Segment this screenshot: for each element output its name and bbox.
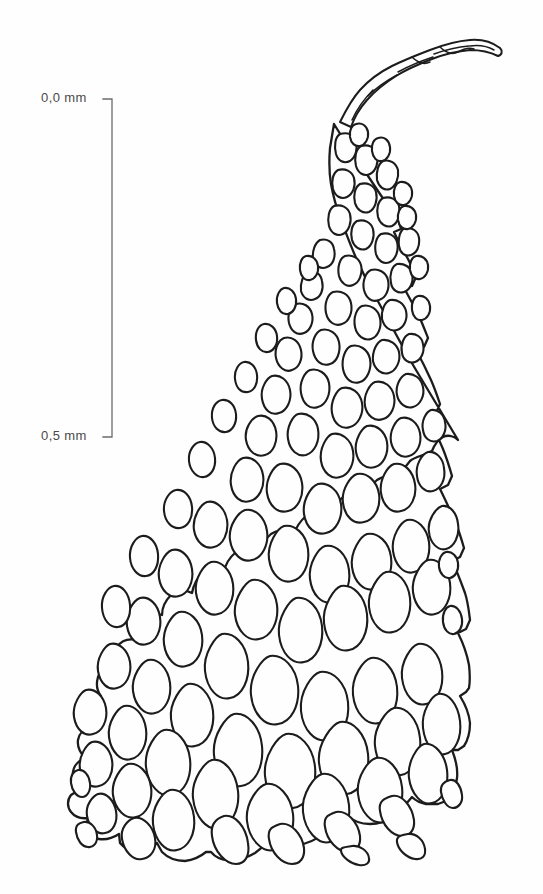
cell <box>398 206 416 229</box>
cell <box>341 846 369 865</box>
cell <box>205 634 249 699</box>
scale-bar-line <box>103 99 112 437</box>
cell <box>439 552 458 578</box>
cell <box>394 182 412 205</box>
scale-label-top: 0,0 mm <box>41 90 87 105</box>
cell <box>350 123 368 146</box>
cell <box>399 228 419 256</box>
cell <box>443 606 462 634</box>
cell <box>246 416 277 456</box>
cell <box>127 598 161 645</box>
cell <box>256 324 277 352</box>
cell <box>251 656 298 725</box>
cell <box>397 834 425 859</box>
cell <box>372 137 390 161</box>
cell <box>277 288 296 314</box>
cell <box>153 790 195 851</box>
cell <box>230 510 268 561</box>
cell <box>338 255 361 285</box>
cell <box>410 256 428 279</box>
cell <box>146 730 191 796</box>
cell <box>429 506 459 549</box>
cell <box>373 340 400 374</box>
cell <box>417 452 445 491</box>
moss-leaf-illustration <box>0 0 543 894</box>
cell <box>102 586 130 627</box>
cell <box>356 426 388 468</box>
cell <box>401 334 423 363</box>
cell <box>397 374 424 408</box>
cell <box>423 410 446 442</box>
figure-root: 0,0 mm 0,5 mm <box>0 0 543 894</box>
cell <box>325 291 351 324</box>
cell <box>324 586 368 651</box>
apex-hair-point <box>340 40 502 127</box>
cell <box>441 780 462 808</box>
cell <box>351 220 373 249</box>
scale-bar <box>103 99 112 437</box>
cell <box>412 296 430 320</box>
cell <box>76 822 97 847</box>
cell <box>301 370 330 408</box>
cell <box>130 536 158 576</box>
cell <box>133 660 171 714</box>
cell <box>332 388 363 428</box>
cell <box>382 300 407 331</box>
scale-label-bottom: 0,5 mm <box>41 428 87 443</box>
cell <box>231 458 264 502</box>
cell <box>304 484 342 534</box>
cell <box>332 169 354 198</box>
cell <box>300 256 318 280</box>
cell <box>354 183 376 212</box>
cell <box>98 644 131 689</box>
cell <box>365 382 395 420</box>
cell <box>343 346 371 383</box>
cell <box>343 474 380 523</box>
cell <box>328 205 350 235</box>
cell <box>381 464 416 512</box>
cell <box>279 598 323 663</box>
cell <box>196 562 234 615</box>
cell <box>74 690 107 735</box>
cell <box>363 269 388 300</box>
cell <box>276 338 302 371</box>
cell <box>354 306 380 340</box>
cell <box>288 414 319 456</box>
hair-point-body <box>340 40 502 127</box>
cell <box>164 490 192 528</box>
cell <box>267 464 303 512</box>
cell <box>269 526 309 582</box>
cell <box>164 612 203 667</box>
cell <box>194 502 228 548</box>
cell <box>159 550 193 597</box>
cell <box>189 442 215 477</box>
cell <box>109 706 147 760</box>
cell <box>375 233 397 263</box>
cell <box>71 770 90 797</box>
cell <box>212 400 236 432</box>
cell <box>113 764 152 818</box>
cell <box>391 418 421 457</box>
cell <box>262 376 291 414</box>
cell <box>235 362 257 392</box>
cell <box>321 434 354 478</box>
cell <box>313 330 340 365</box>
